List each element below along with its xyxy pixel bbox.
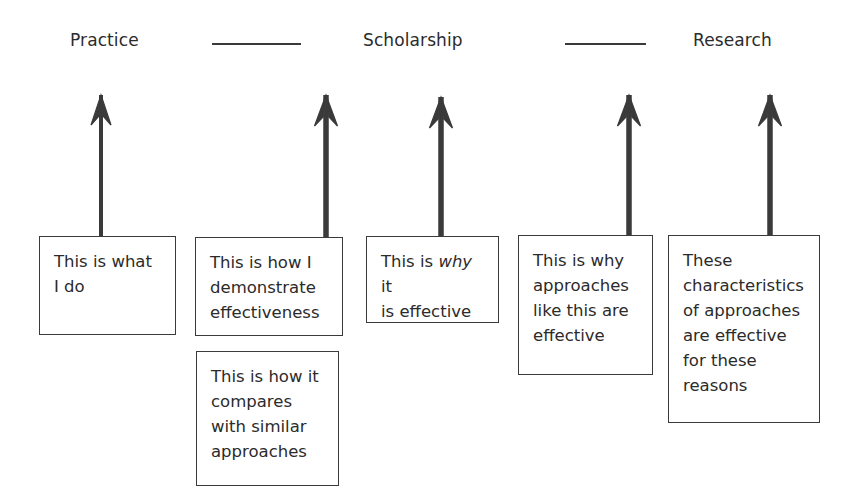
box-practice: This is what I do bbox=[39, 236, 176, 335]
arrow-practice-icon bbox=[91, 95, 111, 238]
continuum-label-scholarship: Scholarship bbox=[363, 30, 463, 50]
continuum-rule-1 bbox=[212, 43, 301, 45]
statement-text: These characteristics of approaches are … bbox=[683, 248, 807, 398]
statement-text: This is why approaches like this are eff… bbox=[533, 248, 640, 348]
statement-text: This is how I demonstrate effectiveness bbox=[210, 250, 330, 325]
box-demonstrate-effectiveness: This is how I demonstrate effectiveness bbox=[195, 237, 343, 336]
statement-text: This is what I do bbox=[54, 249, 163, 299]
continuum-rule-2 bbox=[565, 43, 646, 45]
continuum-label-practice: Practice bbox=[70, 30, 139, 50]
emphasis-word: why bbox=[438, 252, 472, 271]
box-why-approaches-effective: This is why approaches like this are eff… bbox=[518, 235, 653, 375]
box-characteristics-reasons: These characteristics of approaches are … bbox=[668, 235, 820, 423]
statement-text: This is why it is effective bbox=[381, 249, 486, 324]
practice-scholarship-research-diagram: PracticeScholarshipResearch This is what… bbox=[0, 0, 856, 501]
arrow-characteristics-icon bbox=[759, 95, 782, 238]
arrow-why-approaches-icon bbox=[618, 95, 641, 238]
statement-text: This is how it compares with similar app… bbox=[211, 364, 326, 464]
box-why-it-is-effective: This is why it is effective bbox=[366, 236, 499, 323]
box-compares-similar-approaches: This is how it compares with similar app… bbox=[196, 351, 339, 486]
continuum-label-research: Research bbox=[693, 30, 772, 50]
arrow-why-effective-icon bbox=[430, 97, 453, 238]
arrow-demonstrate-icon bbox=[315, 95, 338, 238]
